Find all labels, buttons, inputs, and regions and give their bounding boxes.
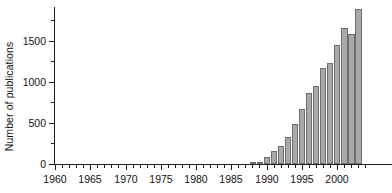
x-tick-major [302, 165, 303, 170]
x-tick-minor [111, 165, 112, 168]
x-tick-minor [189, 165, 190, 168]
x-tick-minor [133, 165, 134, 168]
bar [313, 86, 319, 164]
publications-bar-chart: Number of publications 050010001500 1960… [0, 0, 392, 193]
x-tick-label: 1990 [247, 174, 287, 185]
bar [299, 109, 305, 164]
x-tick-label: 2000 [317, 174, 357, 185]
x-tick-minor [365, 165, 366, 168]
bar [257, 162, 263, 164]
bar [292, 124, 298, 164]
x-tick-minor [259, 165, 260, 168]
x-tick-major [161, 165, 162, 170]
x-tick-minor [97, 165, 98, 168]
x-tick-minor [168, 165, 169, 168]
x-tick-label: 1980 [176, 174, 216, 185]
bar [306, 93, 312, 164]
x-tick-label: 1995 [282, 174, 322, 185]
x-tick-major [231, 165, 232, 170]
x-tick-minor [351, 165, 352, 168]
bar [348, 34, 354, 164]
x-tick-minor [175, 165, 176, 168]
bar [334, 45, 340, 164]
x-tick-minor [210, 165, 211, 168]
bar [264, 157, 270, 164]
bar [341, 28, 347, 164]
bar [327, 63, 333, 164]
bar [271, 151, 277, 164]
x-tick-minor [288, 165, 289, 168]
x-tick-label: 1985 [211, 174, 251, 185]
y-tick-label: 0 [6, 159, 46, 170]
x-tick-minor [140, 165, 141, 168]
x-tick-minor [217, 165, 218, 168]
x-tick-label: 1965 [70, 174, 110, 185]
bar [285, 137, 291, 164]
y-tick-label: 500 [6, 118, 46, 129]
x-tick-major [196, 165, 197, 170]
bar [355, 9, 361, 164]
bar [250, 162, 256, 164]
x-tick-minor [104, 165, 105, 168]
x-tick-minor [358, 165, 359, 168]
x-tick-minor [147, 165, 148, 168]
x-tick-minor [252, 165, 253, 168]
x-tick-minor [281, 165, 282, 168]
x-tick-minor [245, 165, 246, 168]
x-tick-minor [62, 165, 63, 168]
x-tick-minor [274, 165, 275, 168]
x-tick-minor [224, 165, 225, 168]
x-tick-minor [238, 165, 239, 168]
x-tick-major [337, 165, 338, 170]
x-tick-major [55, 165, 56, 170]
x-tick-minor [316, 165, 317, 168]
y-tick-label: 1500 [6, 36, 46, 47]
x-tick-minor [330, 165, 331, 168]
x-tick-minor [309, 165, 310, 168]
x-tick-minor [76, 165, 77, 168]
x-tick-minor [344, 165, 345, 168]
x-tick-minor [154, 165, 155, 168]
x-tick-major [126, 165, 127, 170]
x-tick-label: 1970 [106, 174, 146, 185]
x-tick-major [267, 165, 268, 170]
x-tick-major [90, 165, 91, 170]
x-tick-minor [182, 165, 183, 168]
x-tick-minor [203, 165, 204, 168]
x-tick-minor [69, 165, 70, 168]
x-tick-minor [83, 165, 84, 168]
y-tick-label: 1000 [6, 77, 46, 88]
x-tick-minor [323, 165, 324, 168]
x-tick-label: 1960 [35, 174, 75, 185]
bars-layer [55, 7, 392, 164]
bar [320, 68, 326, 164]
x-tick-minor [295, 165, 296, 168]
x-tick-label: 1975 [141, 174, 181, 185]
x-tick-minor [118, 165, 119, 168]
bar [278, 146, 284, 164]
